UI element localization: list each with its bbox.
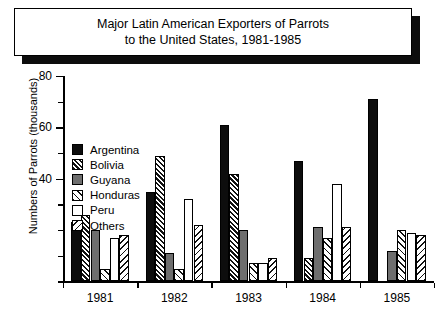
legend-item-guyana[interactable]: Guyana <box>72 172 140 187</box>
y-axis-tick-40 <box>56 179 63 180</box>
bar-others-1985 <box>416 235 426 281</box>
x-axis-tick-0 <box>63 283 64 288</box>
bar-argentina-1983 <box>220 125 230 282</box>
legend-item-argentina[interactable]: Argentina <box>72 142 140 157</box>
bar-honduras-1981 <box>100 269 110 282</box>
y-axis-tick-labels: 806040 <box>26 66 52 317</box>
x-axis-tick-1 <box>137 283 138 288</box>
legend-swatch-others-icon <box>72 220 83 231</box>
x-tick-label-1985: 1985 <box>362 291 432 305</box>
bar-guyana-1983 <box>239 230 249 281</box>
bar-honduras-1984 <box>323 238 333 282</box>
bar-others-1982 <box>194 225 204 281</box>
legend-item-bolivia[interactable]: Bolivia <box>72 157 140 172</box>
x-tick-label-1983: 1983 <box>214 291 284 305</box>
chart-legend: ArgentinaBoliviaGuyanaHondurasPeruOthers <box>72 142 140 233</box>
x-axis-tick-2 <box>211 283 212 288</box>
legend-swatch-peru-icon <box>72 205 83 216</box>
bar-bolivia-1982 <box>155 156 165 282</box>
legend-item-peru[interactable]: Peru <box>72 203 140 218</box>
bar-others-1981 <box>119 235 129 281</box>
legend-label: Bolivia <box>90 159 124 171</box>
chart-plot-area: Numbers of Parrots (thousands) 806040 19… <box>0 66 445 317</box>
legend-label: Guyana <box>90 174 130 186</box>
bar-argentina-1982 <box>146 192 156 282</box>
legend-label: Argentina <box>90 144 139 156</box>
bar-peru-1984 <box>332 184 342 282</box>
bar-honduras-1983 <box>249 263 259 281</box>
legend-swatch-bolivia-icon <box>72 159 83 170</box>
x-tick-label-1984: 1984 <box>288 291 358 305</box>
y-axis-tick-80 <box>56 76 63 77</box>
bar-others-1984 <box>342 227 352 281</box>
legend-label: Peru <box>90 204 114 216</box>
bar-honduras-1985 <box>397 230 407 281</box>
bar-bolivia-1983 <box>229 174 239 282</box>
bar-honduras-1982 <box>174 269 184 282</box>
legend-swatch-argentina-icon <box>72 144 83 155</box>
x-tick-label-1981: 1981 <box>65 291 135 305</box>
bar-bolivia-1984 <box>304 258 314 281</box>
y-axis-tick-60 <box>56 127 63 128</box>
bar-peru-1985 <box>407 233 417 282</box>
chart-title-line-2: to the United States, 1981-1985 <box>97 32 329 48</box>
y-tick-label-80: 80 <box>26 70 52 82</box>
bar-peru-1983 <box>258 263 268 281</box>
chart-title-box: Major Latin American Exporters of Parrot… <box>14 8 412 56</box>
legend-item-others[interactable]: Others <box>72 218 140 233</box>
bar-guyana-1985 <box>387 251 397 282</box>
bar-guyana-1982 <box>165 253 175 281</box>
x-tick-label-1982: 1982 <box>139 291 209 305</box>
bar-argentina-1985 <box>368 99 378 281</box>
x-axis-tick-end <box>434 283 435 288</box>
chart-title-panel: Major Latin American Exporters of Parrot… <box>14 8 412 56</box>
bar-peru-1982 <box>184 199 194 281</box>
bar-others-1983 <box>268 258 278 281</box>
y-tick-label-40: 40 <box>26 173 52 185</box>
bar-guyana-1984 <box>313 227 323 281</box>
legend-swatch-guyana-icon <box>72 174 83 185</box>
chart-title-line-1: Major Latin American Exporters of Parrot… <box>97 16 329 32</box>
legend-swatch-honduras-icon <box>72 190 83 201</box>
y-tick-label-60: 60 <box>26 121 52 133</box>
legend-label: Honduras <box>90 189 140 201</box>
x-axis-ticks-and-labels: 19811982198319841985 <box>63 283 434 289</box>
bar-guyana-1981 <box>91 230 101 281</box>
legend-item-honduras[interactable]: Honduras <box>72 188 140 203</box>
bar-argentina-1984 <box>294 161 304 282</box>
bar-peru-1981 <box>110 238 120 282</box>
x-axis-tick-4 <box>360 283 361 288</box>
legend-label: Others <box>90 220 125 232</box>
x-axis-tick-3 <box>286 283 287 288</box>
